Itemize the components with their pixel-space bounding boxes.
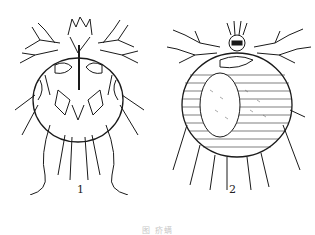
figure: 1 (0, 0, 315, 235)
panel-1-label: 1 (77, 183, 84, 196)
panel-2-mite-dorsal-illustration (165, 5, 315, 195)
mite-dorsal-icon (165, 5, 315, 195)
panel-1-mite-ventral-illustration (10, 5, 160, 195)
panel-2-label: 2 (229, 183, 236, 196)
figure-caption: 图 疥螨 (0, 224, 315, 235)
mite-ventral-icon (10, 5, 160, 195)
